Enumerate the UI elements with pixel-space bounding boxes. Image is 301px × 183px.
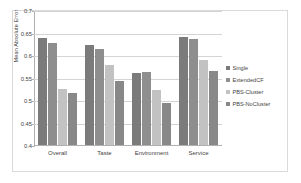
x-tick-label: Environment <box>128 150 175 157</box>
chart-container: Mean Absolute Error 0.40.450.50.550.60.6… <box>0 0 301 183</box>
legend-label: PBS-Cluster <box>233 89 264 95</box>
chart-legend: SingleExtendedCFPBS-ClusterPBS-NoCluster <box>226 62 288 110</box>
y-tick-label: 0.4 <box>10 143 32 149</box>
legend-label: PBS-NoCluster <box>233 101 271 107</box>
legend-item[interactable]: PBS-Cluster <box>226 86 288 98</box>
legend-swatch-icon <box>226 102 230 106</box>
y-tick-label: 0.6 <box>10 53 32 59</box>
y-tick-label: 0.45 <box>10 121 32 127</box>
x-axis-labels: OverallTasteEnvironmentService <box>34 0 222 183</box>
legend-swatch-icon <box>226 90 230 94</box>
legend-label: Single <box>233 65 249 71</box>
legend-item[interactable]: PBS-NoCluster <box>226 98 288 110</box>
y-axis-ticks: 0.40.450.50.550.60.650.7 <box>8 11 32 146</box>
x-tick-label: Service <box>175 150 222 157</box>
legend-item[interactable]: ExtendedCF <box>226 74 288 86</box>
legend-item[interactable]: Single <box>226 62 288 74</box>
legend-swatch-icon <box>226 66 230 70</box>
y-tick-label: 0.5 <box>10 98 32 104</box>
x-tick-label: Taste <box>81 150 128 157</box>
y-tick-label: 0.65 <box>10 31 32 37</box>
legend-label: ExtendedCF <box>233 77 264 83</box>
legend-swatch-icon <box>226 78 230 82</box>
y-tick-label: 0.55 <box>10 76 32 82</box>
x-tick-label: Overall <box>34 150 81 157</box>
y-tick-label: 0.7 <box>10 8 32 14</box>
